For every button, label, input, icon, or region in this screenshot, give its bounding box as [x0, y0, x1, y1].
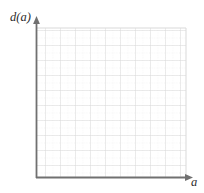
x-axis-label: a — [191, 176, 197, 189]
y-axis-arrowhead — [33, 16, 40, 24]
graph-figure: d(a) a — [0, 0, 204, 193]
major-gridlines — [36, 28, 186, 178]
y-axis-label: d(a) — [10, 11, 31, 24]
coordinate-plane — [0, 0, 204, 193]
